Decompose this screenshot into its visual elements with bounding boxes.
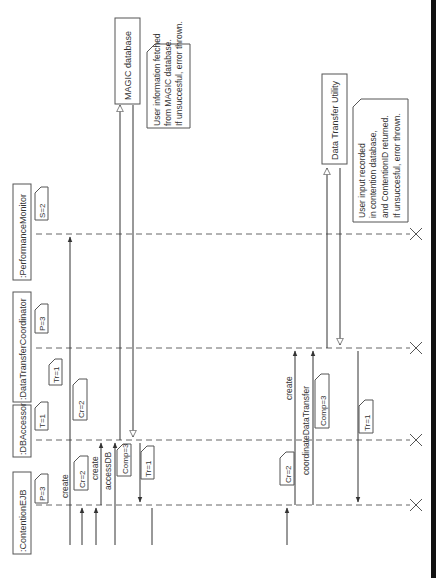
note-line: If unsuccesful, error thrown. <box>392 113 402 218</box>
tag-label: Comp=3 <box>121 443 130 474</box>
destroy-icon <box>410 342 422 354</box>
tag-label: Cr=2 <box>284 465 293 483</box>
lifeline-label: :DBAccessor <box>18 403 28 455</box>
note-line: from MAGIC database. <box>163 39 173 126</box>
lifeline-label: :ContentionEJB <box>18 489 28 552</box>
message-label: coordinateDataTransfer <box>301 386 311 475</box>
tag-label: Comp=3 <box>319 395 328 426</box>
note-line: User input recorded <box>357 143 367 218</box>
sequence-diagram: :PerformanceMonitor :DataTransferCoordin… <box>0 0 436 578</box>
note-line: and ContentionID returned. <box>380 115 390 218</box>
tag-label: Tr=1 <box>52 366 61 383</box>
tag-label: Cr=2 <box>77 400 86 418</box>
note-line: User information fetched <box>152 33 162 126</box>
tag-label: P=3 <box>38 316 47 331</box>
tag-label: P=3 <box>38 486 47 501</box>
message-label: create <box>284 376 294 400</box>
tag-label: S=2 <box>38 203 47 218</box>
tag-label: T=1 <box>38 413 47 428</box>
message-label: create <box>60 474 70 498</box>
destroy-icon <box>410 499 422 511</box>
destroy-icon <box>410 228 422 240</box>
destroy-icon <box>410 434 422 446</box>
page-edge <box>431 0 436 578</box>
note-line: If unsuccesful, error thrown. <box>174 21 184 126</box>
tag-label: Tr=1 <box>144 460 153 477</box>
lifeline-label: :DataTransferCoordinator <box>18 298 28 400</box>
message-label: create <box>90 456 100 480</box>
note-line: in contention database, <box>368 130 378 218</box>
tag-label: Tr=1 <box>363 414 372 431</box>
box-label: MAGIC database <box>123 31 133 100</box>
box-label: Data Transfer Utility <box>330 80 340 160</box>
lifeline-label: :PerformanceMonitor <box>18 194 28 278</box>
tag-label: Cr=2 <box>78 470 87 488</box>
message-label: accessDB <box>103 451 113 490</box>
